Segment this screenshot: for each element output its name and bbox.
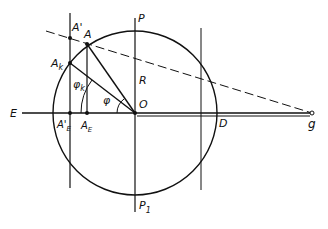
label-phi-k: φk [73, 78, 85, 93]
point-a-e-prime [68, 111, 72, 115]
label-a-k: Ak [50, 57, 64, 72]
label-e: E [10, 107, 17, 120]
label-a: A [83, 28, 92, 41]
label-d: D [219, 117, 227, 130]
point-o [133, 111, 137, 115]
label-a-e: AE [80, 120, 93, 134]
label-a-e-prime: A'E [56, 119, 72, 133]
radius-oa [87, 44, 135, 113]
point-g [310, 111, 314, 115]
label-r: R [139, 74, 147, 87]
label-phi: φ [103, 94, 111, 107]
geometric-diagram: A' A Ak P R O φk φ E A'E AE D g P1 [0, 0, 328, 229]
label-o: O [139, 98, 148, 111]
point-a-e [85, 111, 89, 115]
label-p: P [138, 12, 145, 25]
label-g: g [308, 117, 316, 131]
label-a-prime: A' [71, 21, 83, 34]
point-a-k [68, 61, 72, 65]
point-a-prime [68, 36, 72, 40]
label-p1: P1 [139, 199, 151, 215]
point-a [85, 42, 89, 46]
